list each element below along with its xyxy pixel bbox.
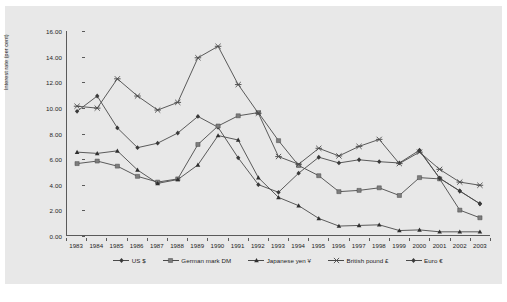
legend-marker-icon	[248, 257, 264, 264]
legend-marker-icon	[113, 257, 129, 264]
x-tick-mark	[389, 238, 390, 241]
x-tick-mark	[409, 238, 410, 241]
x-tick-label: 1989	[190, 242, 204, 249]
series-british-pound	[74, 44, 483, 188]
x-tick-mark	[147, 238, 148, 241]
legend-marker-icon	[163, 257, 179, 264]
x-tick-label: 1992	[251, 242, 265, 249]
x-tick-mark	[228, 238, 229, 241]
legend-item[interactable]: German mark DM	[163, 257, 231, 264]
y-tick-label: 10.00	[28, 104, 62, 111]
x-tick-mark	[429, 238, 430, 241]
legend-label: British pound £	[347, 257, 389, 264]
x-tick-label: 1994	[291, 242, 305, 249]
legend-label: Japanese yen ¥	[267, 257, 311, 264]
legend-marker-icon	[406, 257, 422, 264]
x-tick-mark	[450, 238, 451, 241]
x-tick-mark	[248, 238, 249, 241]
x-tick-label: 1988	[170, 242, 184, 249]
legend-label: US $	[132, 257, 146, 264]
y-axis-ticks: 0.002.004.006.008.0010.0012.0014.0016.00	[25, 31, 62, 236]
y-tick-label: 16.00	[28, 28, 62, 35]
x-tick-mark	[66, 238, 67, 241]
x-tick-label: 1986	[130, 242, 144, 249]
x-tick-label: 1985	[110, 242, 124, 249]
legend-item[interactable]: US $	[113, 257, 145, 264]
x-tick-label: 1987	[150, 242, 164, 249]
x-tick-mark	[369, 238, 370, 241]
x-tick-mark	[187, 238, 188, 241]
y-tick-label: 2.00	[28, 207, 62, 214]
y-tick-label: 4.00	[28, 181, 62, 188]
legend-item[interactable]: British pound £	[328, 257, 389, 264]
x-tick-label: 1998	[372, 242, 386, 249]
y-tick-label: 6.00	[28, 156, 62, 163]
x-tick-mark	[490, 238, 491, 241]
legend-item[interactable]: Japanese yen ¥	[248, 257, 311, 264]
y-tick-label: 12.00	[28, 79, 62, 86]
x-tick-mark	[328, 238, 329, 241]
y-tick-label: 8.00	[28, 130, 62, 137]
x-tick-mark	[127, 238, 128, 241]
chart-lines-svg	[67, 31, 490, 235]
x-tick-label: 1997	[352, 242, 366, 249]
series-us	[75, 94, 482, 207]
legend-label: German mark DM	[181, 257, 231, 264]
legend-item[interactable]: Euro €	[406, 257, 443, 264]
x-tick-label: 2001	[433, 242, 447, 249]
x-tick-label: 2003	[473, 242, 487, 249]
figure-caption	[10, 288, 490, 300]
x-tick-mark	[207, 238, 208, 241]
x-tick-label: 1990	[211, 242, 225, 249]
x-tick-label: 1983	[69, 242, 83, 249]
x-tick-mark	[86, 238, 87, 241]
plot-area	[66, 31, 490, 236]
y-tick-label: 0.00	[28, 233, 62, 240]
series-euro	[417, 148, 482, 206]
x-tick-label: 1991	[231, 242, 245, 249]
x-tick-mark	[167, 238, 168, 241]
legend-label: Euro €	[424, 257, 443, 264]
x-tick-mark	[349, 238, 350, 241]
x-tick-mark	[288, 238, 289, 241]
y-axis-label: Interest rate (per cent)	[3, 34, 9, 90]
series-german-mark-dm	[75, 111, 482, 220]
legend-marker-icon	[328, 257, 344, 264]
x-tick-mark	[268, 238, 269, 241]
x-tick-label: 1996	[332, 242, 346, 249]
chart-legend: US $German mark DMJapanese yen ¥British …	[66, 253, 490, 267]
y-tick-label: 14.00	[28, 53, 62, 60]
x-tick-label: 2000	[412, 242, 426, 249]
x-tick-mark	[470, 238, 471, 241]
x-tick-label: 1995	[311, 242, 325, 249]
x-tick-label: 1999	[392, 242, 406, 249]
x-tick-label: 1984	[89, 242, 103, 249]
x-axis-ticks: 1983198419851986198719881989199019911992…	[66, 238, 490, 250]
x-tick-label: 2002	[453, 242, 467, 249]
x-tick-label: 1993	[271, 242, 285, 249]
figure-panel: Interest rate (per cent) 0.002.004.006.0…	[5, 6, 502, 284]
x-tick-mark	[106, 238, 107, 241]
y-tick-mark	[82, 236, 85, 237]
x-tick-mark	[308, 238, 309, 241]
